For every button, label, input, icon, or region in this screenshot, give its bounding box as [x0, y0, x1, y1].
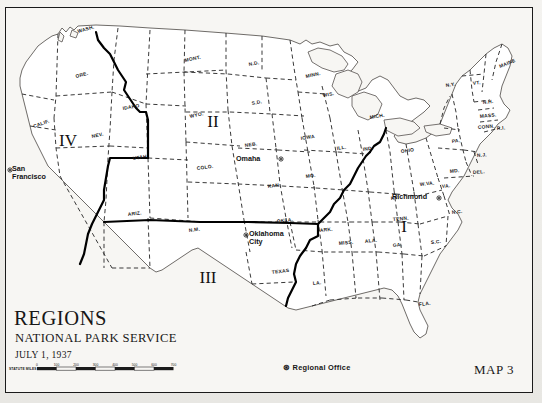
regional-office-dot [280, 158, 282, 160]
scale-units-label: STATUTE MILES [9, 367, 37, 371]
region-numeral: I [401, 217, 407, 236]
map-number: MAP 3 [474, 362, 514, 378]
state-label: DEL. [473, 169, 486, 175]
state-label: VT. [473, 80, 482, 86]
regional-office-icon: ⊛ [283, 363, 290, 372]
region-numeral: II [207, 112, 219, 131]
national-coastline [20, 25, 512, 338]
regional-office-dot [438, 197, 440, 199]
city-label: Francisco [12, 172, 47, 181]
map-title: REGIONS [14, 307, 107, 330]
agency-name: NATIONAL PARK SERVICE [15, 331, 177, 346]
state-label: N.J. [477, 152, 488, 158]
regional-office: SanFrancisco [8, 164, 47, 181]
state-label: VA. [442, 183, 451, 189]
map-date: JULY 1, 1937 [15, 349, 72, 360]
region-numeral: III [200, 268, 217, 287]
region-numeral: IV [59, 131, 78, 150]
city-label: Richmond [392, 192, 427, 201]
state-label: N.C. [452, 209, 464, 215]
legend-label: Regional Office [293, 363, 351, 372]
city-label: Omaha [236, 154, 261, 163]
city-label: City [249, 237, 263, 246]
state-label: GA. [393, 242, 403, 248]
state-label: FLA. [419, 301, 432, 307]
state-label: MD. [450, 168, 461, 174]
map-sheet: .coast{fill:#ffffff;stroke:#55514e;strok… [0, 0, 542, 403]
legend: ⊛ Regional Office [283, 363, 351, 372]
regional-office-dot [245, 234, 247, 236]
state-label: R.I. [497, 125, 506, 131]
scale-bar-block: STATUTE MILES [9, 362, 194, 376]
regional-office-dot [9, 169, 11, 171]
state-label: LA. [313, 280, 322, 286]
